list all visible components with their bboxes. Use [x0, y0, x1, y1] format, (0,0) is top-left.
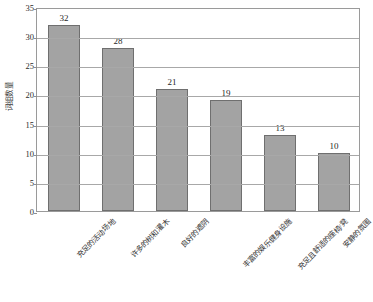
x-axis-category-label: 丰富的娱乐健身设施: [242, 218, 293, 269]
bar[interactable]: [264, 135, 296, 211]
gridline: [37, 184, 359, 185]
bar-slot: 19: [210, 9, 242, 211]
gridline: [37, 38, 359, 39]
bar-value-label: 32: [48, 13, 80, 23]
x-axis-category-label: 许多的树和灌木: [130, 218, 171, 259]
y-axis-tickmark: [34, 96, 37, 97]
bar-slot: 10: [318, 9, 350, 211]
y-axis-tickmark: [34, 155, 37, 156]
bar[interactable]: [318, 153, 350, 211]
y-axis-tickmark: [34, 38, 37, 39]
x-axis-category-label: 良好的遮阴: [180, 218, 211, 249]
gridline: [37, 126, 359, 127]
y-axis-tick-label: 10: [12, 149, 34, 158]
bar-slot: 21: [156, 9, 188, 211]
y-axis-tickmark: [34, 67, 37, 68]
y-axis-tickmark: [34, 9, 37, 10]
y-axis-tickmark: [34, 213, 37, 214]
bar-slot: 28: [102, 9, 134, 211]
bar-value-label: 10: [318, 141, 350, 151]
gridline: [37, 96, 359, 97]
y-axis-tickmark: [34, 184, 37, 185]
y-axis-tick-label: 30: [12, 33, 34, 42]
y-axis-tick-label: 0: [12, 208, 34, 217]
y-axis-tick-label: 25: [12, 62, 34, 71]
bar-slot: 32: [48, 9, 80, 211]
gridline: [37, 155, 359, 156]
bar-value-label: 21: [156, 77, 188, 87]
plot-area: 322821191310: [36, 8, 360, 212]
y-axis-tickmark: [34, 126, 37, 127]
bar[interactable]: [102, 48, 134, 211]
bar[interactable]: [156, 89, 188, 211]
y-axis-tick-label: 35: [12, 4, 34, 13]
x-axis-category-label: 充足的活动场地: [76, 218, 117, 259]
y-axis-tick-label: 15: [12, 120, 34, 129]
bar-slot: 13: [264, 9, 296, 211]
gridline: [37, 67, 359, 68]
bars-layer: 322821191310: [37, 9, 359, 211]
y-axis-tick-label: 5: [12, 178, 34, 187]
y-axis-tick-labels: 05101520253035: [12, 8, 34, 212]
y-axis-tick-label: 20: [12, 91, 34, 100]
